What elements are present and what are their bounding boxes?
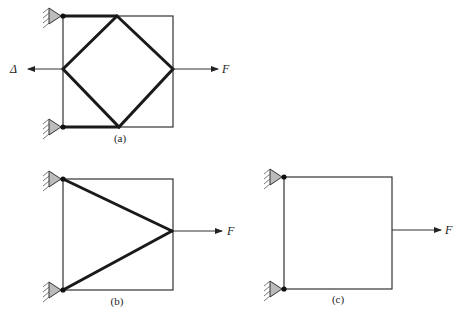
design-domain-c: [284, 177, 392, 289]
displacement-label-a: Δ: [9, 62, 17, 76]
pin-support-icon: [43, 282, 66, 302]
node-dot: [60, 13, 65, 18]
diamond-truss-a: [63, 16, 173, 127]
caption-c: (c): [332, 293, 345, 306]
design-domain-a: [63, 16, 173, 127]
node-dot: [60, 287, 65, 292]
node-dot: [281, 286, 286, 291]
figure-a: F Δ (a): [9, 16, 230, 145]
bar-lower-b: [63, 231, 172, 290]
topology-diagram: F Δ (a) F (b) F (c): [0, 0, 456, 312]
pin-support-icon: [43, 8, 66, 28]
pin-support-icon: [264, 169, 287, 189]
bar-upper-b: [63, 179, 172, 231]
design-domain-b: [63, 179, 173, 290]
node-dot: [60, 124, 65, 129]
pin-support-icon: [43, 171, 66, 191]
node-dot: [60, 176, 65, 181]
pin-support-icon: [264, 281, 287, 301]
figure-c: F (c): [284, 177, 453, 306]
force-label-a: F: [221, 62, 230, 76]
force-label-c: F: [444, 223, 453, 237]
caption-a: (a): [114, 132, 127, 145]
pin-support-icon: [43, 119, 66, 139]
caption-b: (b): [111, 295, 124, 308]
figure-b: F (b): [63, 179, 235, 308]
node-dot: [281, 174, 286, 179]
force-label-b: F: [226, 224, 235, 238]
